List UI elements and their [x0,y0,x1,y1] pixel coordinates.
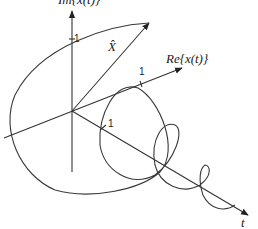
real-axis [4,68,182,138]
imaginary-tick-label: 1 [74,33,80,44]
real-tick-label: 1 [139,66,145,77]
helix-diagram: Im{x(t)} Re{x(t)} t X̂ 1 1 1 [0,0,258,229]
time-axis-label: t [241,215,245,229]
phasor-label: X̂ [107,39,117,54]
time-tick-label: 1 [108,118,114,129]
phasor-arrow [72,23,149,111]
real-axis-label: Re{x(t)} [165,51,209,66]
time-axis [72,111,248,215]
imaginary-axis-label: Im{x(t)} [57,0,101,7]
